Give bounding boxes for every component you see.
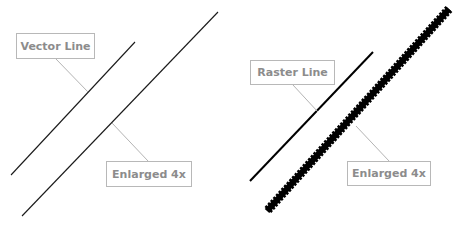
raster-line-label: Raster Line <box>250 60 335 85</box>
vector-line-label: Vector Line <box>16 33 95 59</box>
leader-vector-line <box>56 59 88 92</box>
vector-enlarged-label: Enlarged 4x <box>106 161 192 187</box>
leader-raster-enlarged <box>356 126 389 161</box>
vector-line <box>11 42 135 175</box>
raster-enlarged-label: Enlarged 4x <box>347 161 431 186</box>
leader-vector-enlarged <box>112 123 148 161</box>
leader-raster-line <box>293 85 318 112</box>
